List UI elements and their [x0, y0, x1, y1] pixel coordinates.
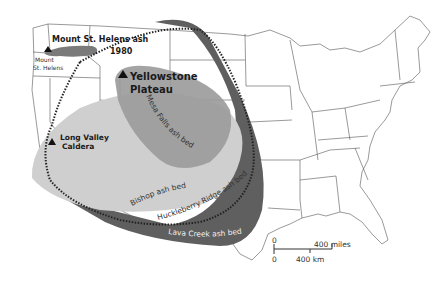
- scale-miles-label: 400 miles: [314, 240, 351, 249]
- msh-ash-label-line2: 1980: [110, 47, 133, 56]
- mount-st-helens-ash-1980-area: [44, 46, 97, 57]
- msh-volcano-label-line2: St. Helens: [33, 64, 63, 71]
- yellowstone-label-line2: Plateau: [130, 84, 173, 95]
- ash-bed-map: Mount St. Helens ash 1980 Mount St. Hele…: [0, 0, 445, 284]
- scale-zero-miles: 0: [272, 236, 277, 245]
- msh-ash-label-line1: Mount St. Helens ash: [52, 35, 149, 44]
- scale-km-label: 400 km: [296, 255, 324, 264]
- long-valley-label-line2: Caldera: [62, 142, 94, 151]
- scale-zero-km: 0: [272, 255, 277, 264]
- long-valley-label-line1: Long Valley: [60, 133, 109, 142]
- yellowstone-label-line1: Yellowstone: [129, 71, 198, 82]
- msh-volcano-label-line1: Mount: [35, 56, 54, 63]
- mount-st-helens-volcano-icon: [44, 46, 52, 52]
- scale-bar: 0 0 400 miles 400 km: [272, 236, 351, 264]
